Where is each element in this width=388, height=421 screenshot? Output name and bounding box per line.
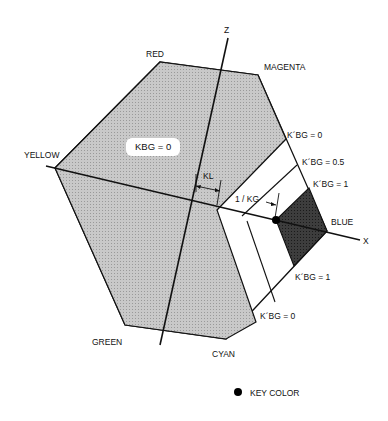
kl-label: KL xyxy=(203,172,213,181)
vertex-label-red: RED xyxy=(146,50,164,59)
diagram-graphics xyxy=(0,0,388,421)
kbg-zero-label: KBG = 0 xyxy=(126,138,180,156)
vertex-label-cyan: CYAN xyxy=(212,350,235,359)
kbg-bottom-1-label: K´BG = 1 xyxy=(295,273,330,282)
kbg-top-0-label: K´BG = 0 xyxy=(287,131,322,140)
key-color-legend-label: KEY COLOR xyxy=(250,389,299,398)
z-axis-label: Z xyxy=(224,26,229,35)
inv-kg-label: 1 / KG xyxy=(235,195,259,204)
vertex-label-yellow: YELLOW xyxy=(24,151,59,160)
key-color-point xyxy=(272,216,280,224)
vertex-label-green: GREEN xyxy=(92,338,122,347)
kbg-top-1-label: K´BG = 1 xyxy=(313,180,348,189)
key-color-legend-dot xyxy=(234,388,242,396)
key-color-diagram: Z X RED MAGENTA YELLOW BLUE GREEN CYAN K… xyxy=(0,0,388,421)
kbg-bottom-0-label: K´BG = 0 xyxy=(260,312,295,321)
x-axis-label: X xyxy=(363,237,369,246)
kbg-top-05-label: K´BG = 0.5 xyxy=(302,158,344,167)
vertex-label-blue: BLUE xyxy=(331,218,353,227)
vertex-label-magenta: MAGENTA xyxy=(264,63,305,72)
